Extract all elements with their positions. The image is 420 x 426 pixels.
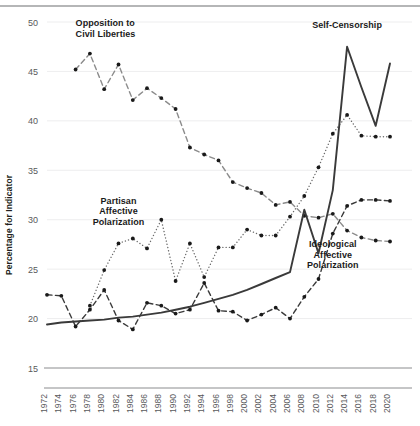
- x-tick-label: 2004: [268, 394, 278, 413]
- data-point: [159, 218, 163, 222]
- data-point: [245, 319, 249, 323]
- annotation-ideological: IdeologicalAffectivePolarization: [307, 239, 359, 270]
- data-point: [360, 198, 364, 202]
- data-point: [317, 165, 321, 169]
- data-point: [174, 279, 178, 283]
- annotation-line: Polarization: [307, 260, 359, 270]
- data-point: [131, 98, 135, 102]
- x-tick-label: 2000: [239, 394, 249, 413]
- axis-lines: [44, 368, 412, 388]
- data-point: [145, 301, 149, 305]
- x-tick-label: 2006: [282, 394, 292, 413]
- data-point: [260, 313, 264, 317]
- data-point: [302, 295, 306, 299]
- data-point: [159, 304, 163, 308]
- data-point: [174, 312, 178, 316]
- data-point: [388, 199, 392, 203]
- x-tick-label: 1980: [96, 394, 106, 413]
- annotation-line: Polarization: [93, 217, 145, 227]
- data-point: [331, 212, 335, 216]
- data-point: [288, 317, 292, 321]
- data-point: [217, 309, 221, 313]
- data-point: [331, 132, 335, 136]
- x-tick-label: 2010: [311, 394, 321, 413]
- data-point: [374, 198, 378, 202]
- data-point: [117, 319, 121, 323]
- gridlines: [47, 22, 412, 319]
- x-tick-label: 1972: [39, 394, 49, 413]
- annotation-partisan: PartisanAffectivePolarization: [93, 196, 145, 227]
- annotation-opposition: Opposition toCivil Liberties: [76, 18, 136, 39]
- x-tick-label: 2012: [325, 394, 335, 413]
- data-point: [217, 159, 221, 163]
- data-point: [74, 68, 78, 72]
- series-line: [47, 47, 390, 325]
- x-tick-label: 1982: [111, 394, 121, 413]
- data-point: [388, 135, 392, 139]
- y-tick-label: 40: [28, 116, 38, 126]
- y-tick-label: 15: [28, 364, 38, 374]
- data-point: [260, 191, 264, 195]
- data-point: [45, 293, 49, 297]
- data-point: [331, 232, 335, 236]
- data-point: [102, 288, 106, 292]
- data-point: [345, 113, 349, 117]
- data-point: [317, 277, 321, 281]
- x-tick-label: 2020: [382, 394, 392, 413]
- data-point: [374, 135, 378, 139]
- data-point: [102, 268, 106, 272]
- x-tick-label: 2008: [296, 394, 306, 413]
- data-point: [159, 96, 163, 100]
- data-point: [374, 239, 378, 243]
- data-point: [231, 180, 235, 184]
- data-point: [188, 242, 192, 246]
- x-tick-label: 1984: [125, 394, 135, 413]
- x-tick-label: 1986: [139, 394, 149, 413]
- x-tick-label: 1992: [182, 394, 192, 413]
- data-point: [274, 203, 278, 207]
- data-point: [202, 281, 206, 285]
- y-tick-label: 25: [28, 265, 38, 275]
- y-tick-label: 50: [28, 18, 38, 28]
- annotation-line: Self-Censorship: [312, 20, 382, 30]
- x-tick-label: 1990: [168, 394, 178, 413]
- data-point: [88, 308, 92, 312]
- annotation-line: Opposition to: [76, 18, 136, 28]
- x-tick-label: 1998: [225, 394, 235, 413]
- data-point: [345, 229, 349, 233]
- annotation-line: Affective: [99, 206, 137, 216]
- y-tick-label: 45: [28, 67, 38, 77]
- annotation-line: Partisan: [101, 196, 137, 206]
- data-point: [117, 63, 121, 67]
- data-point: [74, 325, 78, 329]
- x-tick-label: 1978: [82, 394, 92, 413]
- data-point: [274, 234, 278, 238]
- x-tick-label: 1974: [53, 394, 63, 413]
- data-point: [360, 236, 364, 240]
- data-point: [288, 200, 292, 204]
- series-3: [47, 47, 390, 325]
- y-axis-ticks: 1520253035404550: [28, 18, 38, 374]
- data-point: [59, 294, 63, 298]
- x-tick-label: 2018: [368, 394, 378, 413]
- x-tick-label: 2002: [253, 394, 263, 413]
- annotation-line: Civil Liberties: [76, 29, 136, 39]
- y-tick-label: 20: [28, 314, 38, 324]
- series-layer: [45, 47, 392, 332]
- data-point: [131, 237, 135, 241]
- line-chart: 1520253035404550 19721974197619781980198…: [0, 0, 420, 426]
- annotation-self-censorship: Self-Censorship: [312, 20, 382, 30]
- data-point: [117, 242, 121, 246]
- data-point: [360, 134, 364, 138]
- data-point: [88, 304, 92, 308]
- data-point: [174, 107, 178, 111]
- data-point: [231, 246, 235, 250]
- y-tick-label: 30: [28, 215, 38, 225]
- annotation-line: Affective: [314, 250, 352, 260]
- data-point: [231, 310, 235, 314]
- data-point: [302, 194, 306, 198]
- data-point: [217, 246, 221, 250]
- data-point: [188, 146, 192, 150]
- annotation-line: Ideological: [309, 239, 357, 249]
- data-point: [145, 86, 149, 90]
